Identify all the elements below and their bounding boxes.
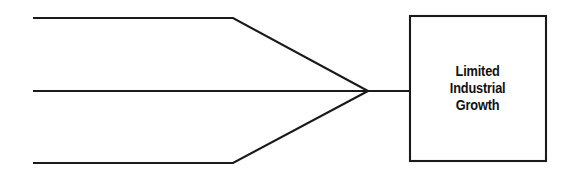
- branch-line-top[interactable]: [33, 18, 368, 91]
- branch-line-bottom[interactable]: [33, 91, 368, 163]
- diagram-canvas: Limited Industrial Growth: [0, 0, 573, 181]
- diagram-svg: [0, 0, 573, 181]
- outcome-node-box[interactable]: [410, 16, 546, 161]
